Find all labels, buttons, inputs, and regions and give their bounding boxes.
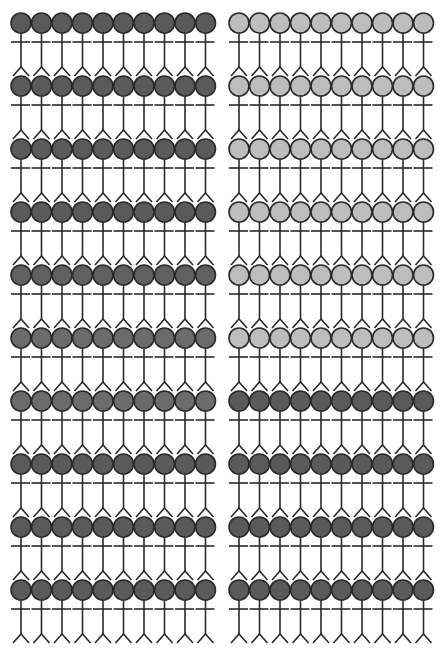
stick-figure-icon — [229, 328, 249, 391]
head-icon — [134, 139, 154, 159]
head-icon — [11, 454, 31, 474]
head-icon — [93, 13, 113, 33]
stick-figure-icon — [332, 139, 352, 202]
stick-figure-icon — [373, 76, 393, 139]
head-icon — [32, 391, 52, 411]
stick-figure-icon — [393, 454, 413, 517]
stick-figure-icon — [155, 139, 175, 202]
stick-figure-icon — [393, 328, 413, 391]
stick-figure-icon — [414, 391, 434, 454]
head-icon — [52, 265, 72, 285]
stick-figure-icon — [291, 13, 311, 76]
stick-figure-icon — [332, 13, 352, 76]
head-icon — [311, 202, 331, 222]
head-icon — [373, 139, 393, 159]
head-icon — [270, 265, 290, 285]
stick-figure-icon — [93, 454, 113, 517]
head-icon — [93, 265, 113, 285]
stick-figure-icon — [93, 13, 113, 76]
stick-figure-icon — [196, 13, 216, 76]
stick-figure-icon — [11, 580, 31, 643]
stick-figure-icon — [373, 454, 393, 517]
stick-figure-icon — [155, 580, 175, 643]
head-icon — [250, 517, 270, 537]
stick-figure-icon — [311, 76, 331, 139]
head-icon — [250, 454, 270, 474]
head-icon — [291, 391, 311, 411]
head-icon — [134, 13, 154, 33]
head-icon — [175, 328, 195, 348]
stick-figure-icon — [393, 76, 413, 139]
head-icon — [93, 391, 113, 411]
stick-figure-icon — [196, 454, 216, 517]
head-icon — [155, 391, 175, 411]
stick-figure-icon — [155, 202, 175, 265]
head-icon — [291, 139, 311, 159]
stick-figure-icon — [93, 391, 113, 454]
head-icon — [155, 517, 175, 537]
head-icon — [11, 391, 31, 411]
stick-figure-icon — [291, 202, 311, 265]
stick-figure-icon — [32, 580, 52, 643]
stick-figure-icon — [332, 202, 352, 265]
stick-figure-icon — [373, 517, 393, 580]
stick-figure-icon — [311, 139, 331, 202]
head-icon — [73, 580, 93, 600]
head-icon — [414, 454, 434, 474]
head-icon — [32, 328, 52, 348]
head-icon — [196, 76, 216, 96]
head-icon — [175, 76, 195, 96]
head-icon — [175, 202, 195, 222]
head-icon — [155, 328, 175, 348]
head-icon — [291, 202, 311, 222]
head-icon — [93, 580, 113, 600]
head-icon — [352, 76, 372, 96]
stick-figure-icon — [73, 265, 93, 328]
stick-figure-icon — [32, 76, 52, 139]
stick-figure-icon — [373, 202, 393, 265]
head-icon — [332, 202, 352, 222]
stick-figure-icon — [373, 13, 393, 76]
stick-figure-icon — [134, 517, 154, 580]
stick-figure-icon — [175, 265, 195, 328]
stick-figure-icon — [311, 517, 331, 580]
stick-figure-icon — [393, 517, 413, 580]
head-icon — [93, 139, 113, 159]
head-icon — [414, 13, 434, 33]
stick-figure-icon — [250, 328, 270, 391]
stick-figure-icon — [196, 391, 216, 454]
head-icon — [114, 13, 134, 33]
stick-figure-icon — [32, 202, 52, 265]
stick-figure-icon — [352, 391, 372, 454]
stick-figure-icon — [196, 139, 216, 202]
stick-figure-icon — [114, 328, 134, 391]
head-icon — [73, 391, 93, 411]
stick-figure-icon — [175, 391, 195, 454]
stick-figure-icon — [134, 391, 154, 454]
head-icon — [311, 391, 331, 411]
stick-figure-icon — [352, 202, 372, 265]
head-icon — [393, 139, 413, 159]
stick-figure-icon — [93, 139, 113, 202]
stick-figure-icon — [352, 517, 372, 580]
head-icon — [114, 76, 134, 96]
head-icon — [229, 328, 249, 348]
head-icon — [414, 517, 434, 537]
head-icon — [393, 391, 413, 411]
head-icon — [373, 517, 393, 537]
head-icon — [52, 328, 72, 348]
stick-figure-icon — [73, 454, 93, 517]
head-icon — [11, 76, 31, 96]
stick-figure-icon — [393, 580, 413, 643]
head-icon — [134, 454, 154, 474]
stick-figure-icon — [291, 517, 311, 580]
stick-figure-icon — [414, 265, 434, 328]
head-icon — [196, 265, 216, 285]
head-icon — [270, 454, 290, 474]
head-icon — [393, 328, 413, 348]
head-icon — [11, 13, 31, 33]
stick-figure-icon — [414, 517, 434, 580]
head-icon — [373, 580, 393, 600]
stick-figure-icon — [52, 328, 72, 391]
stick-figure-icon — [114, 76, 134, 139]
